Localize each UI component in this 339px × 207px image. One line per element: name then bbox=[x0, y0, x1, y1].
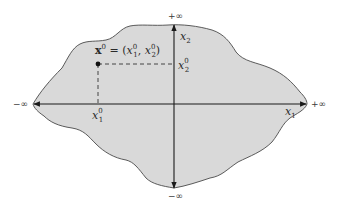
point-x0 bbox=[96, 62, 101, 67]
x1-projection-label: x01 bbox=[92, 107, 103, 124]
x2-neg-infinity-label: −∞ bbox=[168, 191, 183, 201]
x1-pos-infinity-label: +∞ bbox=[311, 99, 326, 109]
x2-projection-label: x02 bbox=[178, 57, 189, 74]
region-blob bbox=[33, 25, 307, 188]
x2-pos-infinity-label: +∞ bbox=[168, 11, 183, 21]
x1-neg-infinity-label: −∞ bbox=[13, 99, 28, 109]
plane-diagram: x0 = (x01, x02) x2 x02 x01 x1 +∞ −∞ −∞ +… bbox=[0, 0, 339, 207]
